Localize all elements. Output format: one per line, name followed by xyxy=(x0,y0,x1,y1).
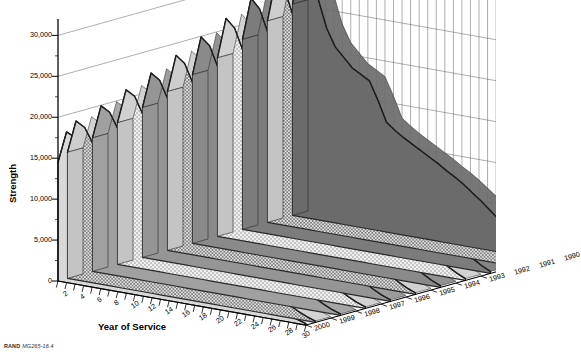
y-tick-label: 30,000 xyxy=(2,30,52,39)
y-tick-label: 15,000 xyxy=(2,153,52,162)
z-tick-label: 1990 xyxy=(563,250,581,263)
y-tick-label: 25,000 xyxy=(2,71,52,80)
y-tick-label: 5,000 xyxy=(2,235,52,244)
figure-credit: RANDMG265-16.4 xyxy=(4,343,54,349)
credit-code: MG265-16.4 xyxy=(22,343,53,349)
z-tick-label: 1992 xyxy=(513,264,531,277)
credit-rand: RAND xyxy=(4,343,20,349)
y-tick-label: 10,000 xyxy=(2,194,52,203)
z-tick-label: 1991 xyxy=(538,257,556,270)
y-tick-label: 0 xyxy=(2,276,52,285)
y-tick-label: 20,000 xyxy=(2,112,52,121)
x-axis-title: Year of Service xyxy=(98,321,166,332)
surface-layer xyxy=(58,0,496,325)
